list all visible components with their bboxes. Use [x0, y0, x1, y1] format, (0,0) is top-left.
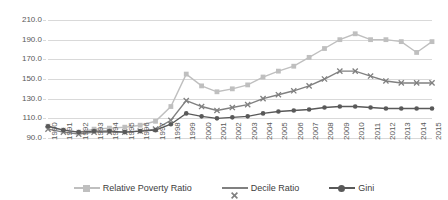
- data-point: [261, 111, 266, 116]
- data-point: [168, 104, 173, 109]
- x-tick-label: 2013: [404, 122, 412, 140]
- data-point: [307, 107, 312, 112]
- data-point: [276, 109, 281, 114]
- legend-label: Relative Poverty Ratio: [103, 184, 192, 193]
- x-tick-label: 2012: [389, 122, 397, 140]
- data-point: [322, 46, 327, 51]
- legend-marker-square-icon: [74, 183, 100, 193]
- data-point: [230, 115, 235, 120]
- data-point: [430, 39, 435, 44]
- x-tick-label: 2005: [281, 122, 289, 140]
- x-tick-label: 1999: [189, 122, 197, 140]
- x-tick-label: 2001: [220, 122, 228, 140]
- data-point: [430, 106, 435, 111]
- data-point: [384, 37, 389, 42]
- x-tick-label: 2004: [266, 122, 274, 140]
- data-point: [414, 50, 419, 55]
- series-layer: [48, 20, 432, 138]
- data-point: [184, 72, 189, 77]
- x-tick-label: 2002: [235, 122, 243, 140]
- data-point: [184, 111, 189, 116]
- legend-item-relative-poverty-ratio[interactable]: Relative Poverty Ratio: [74, 183, 192, 193]
- x-tick-label: 2011: [374, 123, 382, 140]
- data-point: [291, 108, 296, 113]
- data-point: [307, 55, 312, 60]
- x-tick-label: 1991: [66, 122, 74, 140]
- data-point: [414, 106, 419, 111]
- y-tick-label: 130.0: [0, 95, 42, 103]
- data-point: [338, 104, 343, 109]
- x-tick-label: 1996: [143, 122, 151, 140]
- x-tick-label: 2009: [343, 122, 351, 140]
- data-point: [399, 39, 404, 44]
- data-point: [199, 83, 204, 88]
- data-point: [276, 69, 281, 74]
- data-point: [230, 86, 235, 91]
- data-point: [245, 114, 250, 119]
- data-point: [199, 114, 204, 119]
- data-point: [368, 105, 373, 110]
- y-tick-mark: [43, 118, 46, 119]
- data-point: [322, 76, 327, 81]
- chart-legend: Relative Poverty RatioDecile RatioGini: [0, 180, 448, 196]
- y-tick-label: 190.0: [0, 36, 42, 44]
- x-tick-label: 2014: [420, 122, 428, 140]
- y-tick-label: 150.0: [0, 75, 42, 83]
- data-point: [215, 116, 220, 121]
- x-tick-label: 1990: [51, 122, 59, 140]
- x-tick-label: 2015: [435, 122, 443, 140]
- y-tick-mark: [43, 138, 46, 139]
- data-point: [261, 75, 266, 80]
- data-point: [245, 83, 250, 88]
- x-tick-label: 2003: [251, 122, 259, 140]
- x-tick-label: 2006: [297, 122, 305, 140]
- x-tick-label: 1992: [82, 122, 90, 140]
- y-tick-label: 110.0: [0, 114, 42, 122]
- legend-item-gini[interactable]: Gini: [329, 183, 374, 193]
- chart-container: 210.0190.0170.0150.0130.0110.090.0 19901…: [0, 0, 448, 200]
- y-tick-mark: [43, 40, 46, 41]
- legend-marker-circle-icon: [329, 183, 355, 193]
- y-tick-mark: [43, 59, 46, 60]
- data-point: [368, 37, 373, 42]
- legend-label: Gini: [358, 184, 374, 193]
- y-tick-mark: [43, 79, 46, 80]
- x-axis: 1990199119921993199419951996199719981999…: [48, 140, 432, 176]
- data-point: [399, 106, 404, 111]
- data-point: [353, 104, 358, 109]
- data-point: [353, 31, 358, 36]
- y-tick-label: 90.0: [0, 134, 42, 142]
- y-axis: 210.0190.0170.0150.0130.0110.090.0: [0, 0, 46, 160]
- x-tick-label: 1998: [174, 122, 182, 140]
- legend-marker-x-icon: [222, 183, 248, 193]
- x-tick-label: 1995: [128, 122, 136, 140]
- x-tick-label: 1993: [97, 122, 105, 140]
- data-point: [215, 89, 220, 94]
- x-tick-label: 2010: [358, 122, 366, 140]
- y-tick-mark: [43, 20, 46, 21]
- x-tick-label: 2007: [312, 122, 320, 140]
- plot-area: [48, 20, 432, 138]
- x-tick-label: 1994: [112, 122, 120, 140]
- legend-item-decile-ratio[interactable]: Decile Ratio: [222, 183, 300, 193]
- x-tick-label: 2008: [327, 122, 335, 140]
- legend-label: Decile Ratio: [251, 184, 300, 193]
- data-point: [322, 105, 327, 110]
- data-point: [384, 106, 389, 111]
- x-tick-label: 2000: [205, 122, 213, 140]
- y-tick-label: 210.0: [0, 16, 42, 24]
- data-point: [337, 37, 342, 42]
- y-tick-mark: [43, 99, 46, 100]
- data-point: [291, 64, 296, 69]
- series-relative-poverty-ratio: [46, 31, 435, 134]
- y-tick-label: 170.0: [0, 55, 42, 63]
- x-tick-label: 1997: [159, 122, 167, 140]
